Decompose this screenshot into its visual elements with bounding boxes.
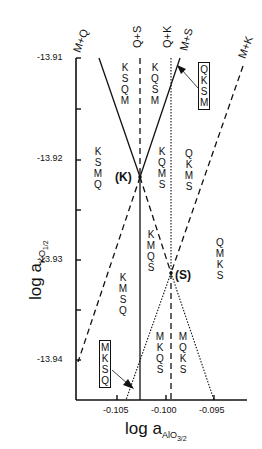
- x-axis-title-subsub: 3/2: [177, 435, 187, 442]
- y-axis-title-main: log a: [26, 263, 45, 300]
- x-axis-title-sub: AlO: [162, 430, 177, 440]
- field-label-qmks: QMKS: [215, 237, 225, 281]
- field-label-kqsm: KQSM: [150, 62, 160, 106]
- boxed-label-mksq: MKSQ: [99, 340, 111, 388]
- label-q-plus-k: Q+K: [161, 26, 173, 48]
- label-q-plus-s: Q+S: [131, 26, 143, 48]
- boxed-label-qksm: QKSM: [198, 62, 210, 110]
- field-label-qkms: QKMS: [184, 148, 194, 192]
- field-label-ksmq: KSMQ: [93, 146, 103, 190]
- y-axis-title: log aKO1/2: [26, 240, 49, 300]
- field-label-ksqm: KSQM: [120, 62, 130, 106]
- field-label-kmsq: KMSQ: [118, 272, 128, 316]
- point-s-marker: [169, 271, 173, 275]
- y-tick-label: -13.91: [37, 52, 63, 62]
- x-tick-label: -0.100: [151, 405, 177, 415]
- arrow-box1: [182, 70, 198, 88]
- x-axis-title: log aAlO3/2: [125, 419, 187, 442]
- line-m-plus-q-dashed: [78, 177, 140, 362]
- y-tick-label: -13.94: [37, 354, 63, 364]
- point-k-label: (K): [115, 170, 132, 184]
- point-s-label: (S): [175, 268, 191, 282]
- field-label-kmqs: KMQS: [146, 229, 156, 273]
- field-label-kqms: KQMS: [157, 146, 167, 190]
- phase-diagram-plot: [0, 0, 262, 449]
- x-axis-title-main: log a: [125, 419, 162, 438]
- x-tick-label: -0.095: [199, 405, 225, 415]
- field-label-mqks: MQKS: [178, 331, 188, 375]
- point-k-marker: [138, 175, 142, 179]
- x-tick-label: -0.105: [103, 405, 129, 415]
- y-axis-title-sub: KO: [37, 250, 47, 263]
- y-tick-label: -13.92: [37, 153, 63, 163]
- y-axis-title-subsub: 1/2: [42, 240, 49, 250]
- field-label-mkqs: MKQS: [155, 331, 165, 375]
